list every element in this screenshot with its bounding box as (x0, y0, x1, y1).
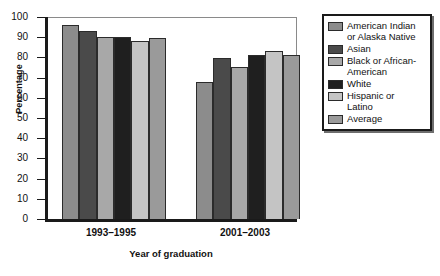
x-axis-line (45, 219, 297, 222)
y-tick-20: 20 (37, 179, 45, 180)
bar-group-1993-1995 (62, 17, 166, 219)
x-tick-label-0: 1993–1995 (59, 227, 163, 238)
y-tick-label-60: 60 (2, 93, 28, 103)
bar (265, 51, 282, 219)
bar (231, 67, 248, 220)
bar (213, 58, 230, 219)
bar (248, 55, 265, 219)
bar (196, 82, 213, 219)
legend-swatch-icon (328, 115, 343, 124)
legend-label: Asian (347, 43, 371, 54)
legend-item: Asian (328, 43, 427, 54)
y-tick-70: 70 (37, 78, 45, 79)
bar (114, 37, 131, 219)
legend-swatch-icon (328, 22, 343, 31)
y-tick-50: 50 (37, 118, 45, 119)
plot-area: 0102030405060708090100 1993–1995 2001–20… (45, 17, 297, 222)
legend-label: Average (347, 113, 382, 124)
bars-container (48, 17, 296, 219)
y-tick-60: 60 (37, 98, 45, 99)
legend-item: White (328, 78, 427, 89)
bar (62, 25, 79, 219)
y-tick-10: 10 (37, 199, 45, 200)
y-tick-label-30: 30 (2, 153, 28, 163)
y-tick-label-40: 40 (2, 133, 28, 143)
bar (97, 37, 114, 219)
legend-item: American Indian or Alaska Native (328, 20, 427, 42)
legend-item: Average (328, 113, 427, 124)
y-tick-label-10: 10 (2, 194, 28, 204)
y-tick-label-80: 80 (2, 52, 28, 62)
x-axis-title: Year of graduation (45, 248, 297, 259)
legend-swatch-icon (328, 92, 343, 101)
y-tick-0: 0 (37, 219, 45, 220)
y-tick-label-100: 100 (2, 12, 28, 22)
y-tick-80: 80 (37, 57, 45, 58)
bar-group-2001-2003 (196, 17, 300, 219)
legend-swatch-icon (328, 45, 343, 54)
y-tick-100: 100 (37, 17, 45, 18)
bar-chart: Percentage 0102030405060708090100 1993–1… (0, 0, 440, 276)
legend-label: Black or African- American (347, 55, 416, 77)
y-tick-label-50: 50 (2, 113, 28, 123)
x-tick-label-1: 2001–2003 (193, 227, 297, 238)
y-tick-40: 40 (37, 138, 45, 139)
legend: American Indian or Alaska NativeAsianBla… (322, 14, 432, 131)
y-tick-label-90: 90 (2, 32, 28, 42)
legend-item: Black or African- American (328, 55, 427, 77)
y-tick-90: 90 (37, 37, 45, 38)
bar (79, 31, 96, 219)
bar (283, 55, 300, 219)
legend-swatch-icon (328, 80, 343, 89)
legend-label: American Indian or Alaska Native (347, 20, 416, 42)
legend-label: Hispanic or Latino (347, 90, 395, 112)
y-tick-30: 30 (37, 158, 45, 159)
legend-swatch-icon (328, 57, 343, 66)
bar (149, 38, 166, 219)
legend-label: White (347, 78, 371, 89)
y-tick-label-0: 0 (2, 214, 28, 224)
legend-item: Hispanic or Latino (328, 90, 427, 112)
y-tick-label-70: 70 (2, 73, 28, 83)
bar (131, 41, 148, 219)
y-tick-label-20: 20 (2, 174, 28, 184)
